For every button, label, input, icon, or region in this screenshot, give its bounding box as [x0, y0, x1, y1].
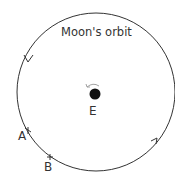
point-b-label: B [44, 161, 52, 173]
orbit-direction-arrow-right [151, 138, 157, 144]
orbit-title: Moon's orbit [61, 27, 132, 39]
earth-label: E [89, 105, 97, 117]
point-a-label: A [18, 130, 26, 142]
earth-dot [90, 89, 101, 100]
